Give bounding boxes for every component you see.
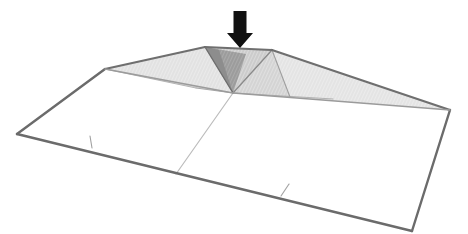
point-load-arrow bbox=[227, 11, 253, 48]
point-load-arrow-shape bbox=[227, 11, 253, 48]
deformed-plate-diagram bbox=[0, 0, 468, 234]
figure-container bbox=[0, 0, 468, 234]
